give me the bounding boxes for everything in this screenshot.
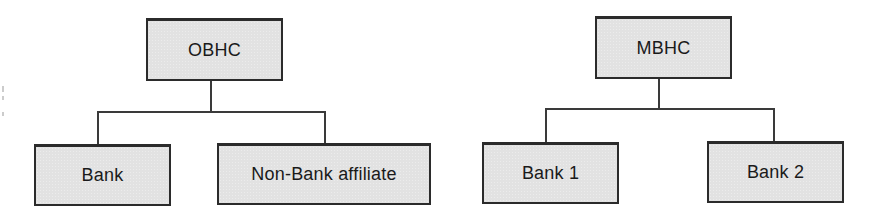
bank-2-box: Bank 2 (707, 141, 844, 203)
bank-1-label: Bank 1 (522, 163, 579, 184)
mbhc-to-bank1-line (545, 108, 547, 142)
mbhc-trunk-line (658, 79, 660, 110)
mbhc-branch-line (545, 108, 775, 110)
scan-artifact (2, 112, 4, 116)
obhc-to-nonbank-line (324, 111, 326, 143)
obhc-root-label: OBHC (188, 40, 241, 61)
mbhc-to-bank2-line (773, 108, 775, 141)
non-bank-affiliate-label: Non-Bank affiliate (251, 164, 396, 185)
mbhc-root-label: MBHC (637, 38, 691, 59)
bank-label: Bank (82, 165, 124, 186)
obhc-root-box: OBHC (146, 18, 283, 81)
holding-company-diagram: OBHC Bank Non-Bank affiliate MBHC Bank 1… (0, 0, 880, 222)
scan-artifact (2, 86, 4, 92)
mbhc-root-box: MBHC (595, 16, 732, 79)
non-bank-affiliate-box: Non-Bank affiliate (217, 143, 431, 205)
bank-box: Bank (34, 144, 171, 206)
obhc-trunk-line (210, 81, 212, 112)
scan-artifact (2, 96, 4, 100)
bank-2-label: Bank 2 (747, 162, 804, 183)
obhc-branch-line (97, 111, 326, 113)
bank-1-box: Bank 1 (482, 142, 619, 204)
obhc-to-bank-line (97, 111, 99, 144)
